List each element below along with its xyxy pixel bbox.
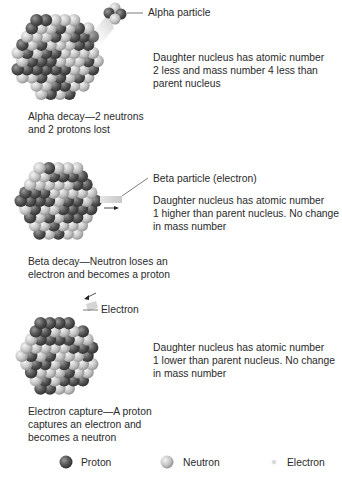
neutron-sphere-icon [161, 456, 174, 469]
nucleus-alpha [12, 14, 104, 100]
alpha-particle-label: Alpha particle [148, 6, 210, 19]
caption-line: captures an electron and [28, 418, 152, 431]
desc-line: parent nucleus [153, 77, 324, 90]
beta-leader-line [122, 178, 148, 196]
beta-description: Daughter nucleus has atomic number 1 hig… [153, 194, 339, 233]
electron-dot-icon [272, 460, 277, 465]
capture-caption: Electron capture—A proton captures an el… [28, 405, 152, 444]
electron-trail [86, 301, 98, 311]
beta-particle-label: Beta particle (electron) [153, 172, 257, 185]
beta-trail [100, 196, 122, 203]
desc-line: in mass number [153, 367, 335, 380]
caption-line: Alpha decay—2 neutrons [28, 110, 144, 123]
desc-line: 2 less and mass number 4 less than [153, 64, 324, 77]
caption-line: Beta decay—Neutron loses an [28, 255, 170, 268]
nucleus-electron-capture [16, 317, 99, 395]
beta-caption: Beta decay—Neutron loses an electron and… [28, 255, 170, 281]
nucleus-beta [15, 162, 103, 240]
desc-line: 1 lower than parent nucleus. No change [153, 354, 335, 367]
legend-proton-label: Proton [81, 456, 111, 469]
desc-line: in mass number [153, 220, 339, 233]
desc-line: Daughter nucleus has atomic number [153, 341, 335, 354]
desc-line: Daughter nucleus has atomic number [153, 194, 339, 207]
proton-sphere-icon [60, 456, 73, 469]
legend-electron-label: Electron [287, 456, 325, 469]
caption-line: and 2 protons lost [28, 123, 144, 136]
caption-line: Electron capture—A proton [28, 405, 152, 418]
capture-description: Daughter nucleus has atomic number 1 low… [153, 341, 335, 380]
desc-line: 1 higher than parent nucleus. No change [153, 207, 339, 220]
caption-line: electron and becomes a proton [28, 268, 170, 281]
alpha-caption: Alpha decay—2 neutrons and 2 protons los… [28, 110, 144, 136]
alpha-description: Daughter nucleus has atomic number 2 les… [153, 51, 324, 90]
caption-line: becomes a neutron [28, 431, 152, 444]
electron-label: Electron [101, 303, 139, 316]
legend-neutron-label: Neutron [183, 456, 220, 469]
desc-line: Daughter nucleus has atomic number [153, 51, 324, 64]
